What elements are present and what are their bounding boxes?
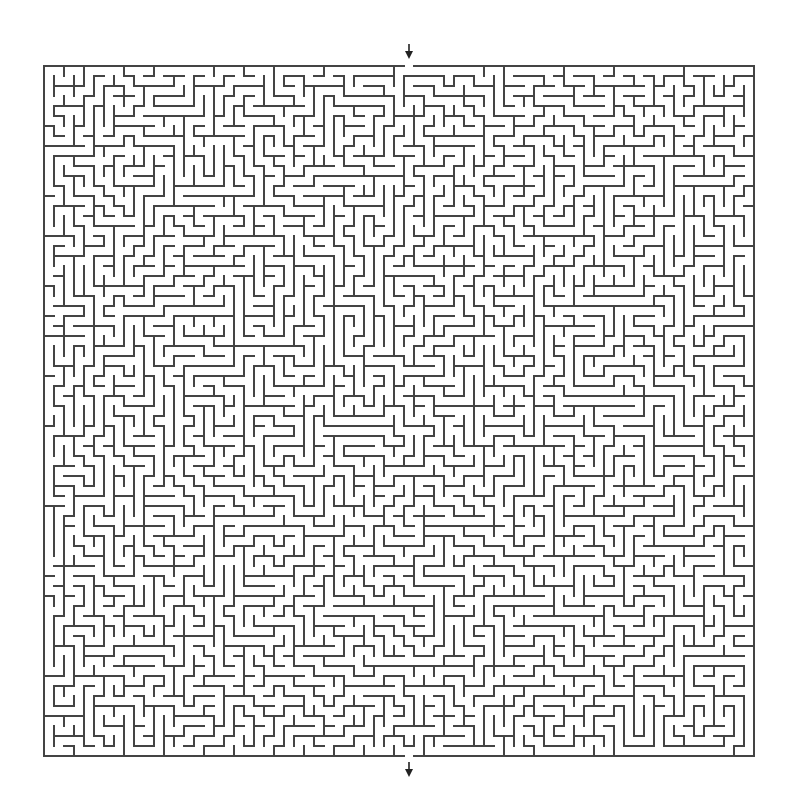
- exit-arrow-icon: [405, 762, 413, 777]
- entrance-arrow-icon: [405, 44, 413, 59]
- maze-walls: [44, 66, 754, 756]
- maze-grid[interactable]: [0, 0, 786, 808]
- maze-canvas: Start End: [0, 0, 786, 808]
